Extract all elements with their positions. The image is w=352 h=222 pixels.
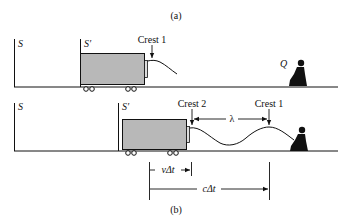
wave-displacement-label: cΔt (202, 183, 215, 194)
wheel-icon (132, 151, 137, 156)
panel-a: (a) S S′ Crest 1 Q (14, 10, 338, 91)
wheel-icon (90, 87, 95, 92)
observer-person-icon (289, 60, 307, 86)
wheel-icon (132, 87, 137, 92)
truck-b (123, 120, 190, 156)
wheel-icon (126, 87, 131, 92)
crest-2-label: Crest 2 (178, 98, 207, 109)
wavelength-label: λ (230, 113, 235, 124)
wave-b (190, 127, 295, 145)
frame-s-label-b: S (18, 101, 23, 112)
wheel-icon (126, 151, 131, 156)
wheel-icon (84, 87, 89, 92)
truck-bumper (187, 127, 190, 143)
doppler-diagram: (a) S S′ Crest 1 Q (0, 0, 352, 222)
wave-front-a (148, 60, 178, 74)
truck-a (81, 54, 148, 92)
frame-s-prime-label-a: S′ (84, 38, 92, 49)
truck-body (81, 54, 145, 85)
wheel-icon (174, 151, 179, 156)
wheel-icon (168, 151, 173, 156)
frame-s-label-a: S (18, 38, 23, 49)
panel-b-label: (b) (170, 204, 182, 216)
observer-label-q: Q (280, 58, 288, 69)
crest-1-label-b: Crest 1 (255, 98, 284, 109)
truck-body (123, 120, 187, 150)
source-displacement-label: vΔt (161, 164, 174, 175)
truck-bumper (145, 61, 148, 78)
frame-s-prime-label-b: S′ (122, 101, 130, 112)
panel-b: S S′ Crest 2 Crest 1 λ (14, 98, 338, 216)
crest-1-label-a: Crest 1 (138, 34, 167, 45)
panel-a-label: (a) (170, 10, 181, 22)
